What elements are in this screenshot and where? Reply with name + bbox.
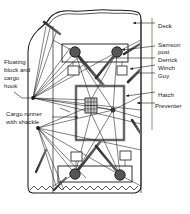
leader-winch xyxy=(130,65,155,69)
winch-top-left xyxy=(68,66,79,75)
label-samson-post-line2: post xyxy=(158,48,170,55)
label-cargo-runner-l2: with shackle xyxy=(6,118,39,125)
label-preventer: Preventer xyxy=(155,102,181,109)
waterline-zigzag xyxy=(30,186,138,190)
masthead-block-bot-left xyxy=(70,169,80,179)
label-winch: Winch xyxy=(158,64,175,71)
cargo-runner-shackle-node xyxy=(111,108,115,112)
masthead-block-bot-right xyxy=(115,170,125,180)
derrick-rigging-diagram: Deck Samson post Derrick Winch Guy Hatch… xyxy=(0,0,190,214)
label-floating-block-l3: cargo xyxy=(4,74,19,81)
label-deck: Deck xyxy=(158,22,172,29)
winch-top-right xyxy=(117,66,127,75)
floating-block-cargo-hook xyxy=(85,98,97,113)
winch-bot-left xyxy=(71,152,82,161)
label-floating-block-l4: hook xyxy=(4,82,17,89)
masthead-block-top-right xyxy=(112,47,122,57)
masthead-block-top-left xyxy=(70,47,80,57)
label-guy: Guy xyxy=(158,72,169,79)
label-derrick: Derrick xyxy=(158,56,177,63)
leader-samson-post xyxy=(122,46,155,50)
winch-bot-right xyxy=(120,151,131,160)
label-floating-block-l2: block and xyxy=(4,66,30,73)
guy-convergence-lower xyxy=(36,126,40,130)
label-hatch: Hatch xyxy=(158,91,174,98)
label-cargo-runner-l1: Cargo runner xyxy=(6,110,42,117)
label-floating-block-l1: Floating xyxy=(4,58,26,65)
